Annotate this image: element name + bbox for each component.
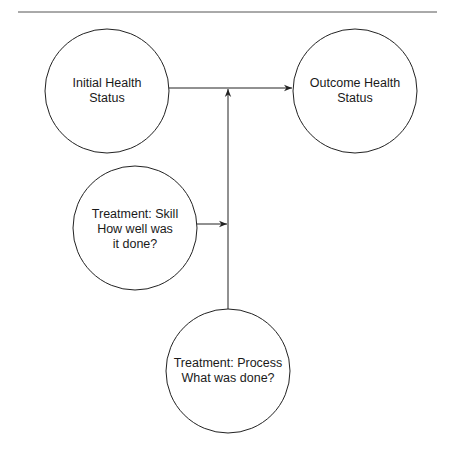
label-initial-health-status: Initial Health Status xyxy=(73,76,142,106)
label-treatment-skill: Treatment: Skill How well was it done? xyxy=(92,207,178,252)
label-outcome-health-status: Outcome Health Status xyxy=(310,76,400,106)
diagram-canvas xyxy=(0,0,452,459)
label-treatment-process: Treatment: Process What was done? xyxy=(174,356,283,386)
